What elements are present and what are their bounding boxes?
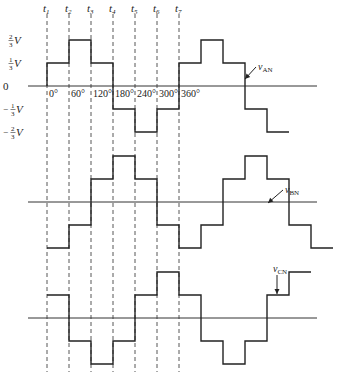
svg-text:3: 3 [11, 110, 15, 118]
svg-text:1: 1 [9, 56, 13, 64]
svg-text:2: 2 [9, 33, 13, 41]
zero-axes [28, 86, 317, 318]
y-label-zero: 0 [3, 80, 9, 92]
svg-text:V: V [14, 34, 22, 46]
time-mark-label: t4 [109, 2, 116, 16]
y-label: 23V [9, 33, 23, 49]
angle-label: 180° [115, 88, 134, 99]
waveform-label-cn: vCN [273, 263, 287, 294]
svg-text:3: 3 [11, 133, 15, 141]
svg-text:−: − [3, 104, 8, 114]
angle-label: 300° [159, 88, 178, 99]
angle-labels: 0°60°120°180°240°300°360° [49, 88, 200, 99]
svg-text:V: V [16, 126, 24, 138]
waveform-label-bn: vBN [268, 184, 299, 203]
y-label: 13V [9, 56, 23, 72]
time-mark-labels: t1t2t3t4t5t6t7 [43, 2, 182, 16]
inverter-waveform-diagram: t1t2t3t4t5t6t7 23V13V0−13V−23V 0°60°120°… [0, 0, 345, 379]
angle-label: 0° [49, 88, 58, 99]
waveform-label-an: vAN [245, 61, 273, 79]
svg-text:−: − [3, 127, 8, 137]
svg-text:V: V [16, 103, 24, 115]
time-mark-label: t7 [175, 2, 182, 16]
time-mark-label: t2 [65, 2, 72, 16]
time-mark-label: t6 [153, 2, 160, 16]
y-label: −23V [3, 125, 24, 141]
angle-label: 360° [181, 88, 200, 99]
time-mark-label: t3 [87, 2, 94, 16]
svg-text:vBN: vBN [285, 184, 299, 197]
svg-text:3: 3 [9, 41, 13, 49]
angle-label: 60° [71, 88, 85, 99]
svg-text:3: 3 [9, 64, 13, 72]
angle-label: 240° [137, 88, 156, 99]
svg-text:vAN: vAN [258, 61, 273, 74]
angle-label: 120° [93, 88, 112, 99]
svg-text:vCN: vCN [273, 263, 287, 276]
y-label: −13V [3, 102, 24, 118]
svg-text:2: 2 [11, 125, 15, 133]
svg-text:V: V [14, 57, 22, 69]
time-mark-label: t5 [131, 2, 138, 16]
waveform-labels: vANvBNvCN [245, 61, 299, 294]
time-mark-label: t1 [43, 2, 50, 16]
svg-text:1: 1 [11, 102, 15, 110]
voltage-level-labels: 23V13V0−13V−23V [3, 33, 24, 141]
